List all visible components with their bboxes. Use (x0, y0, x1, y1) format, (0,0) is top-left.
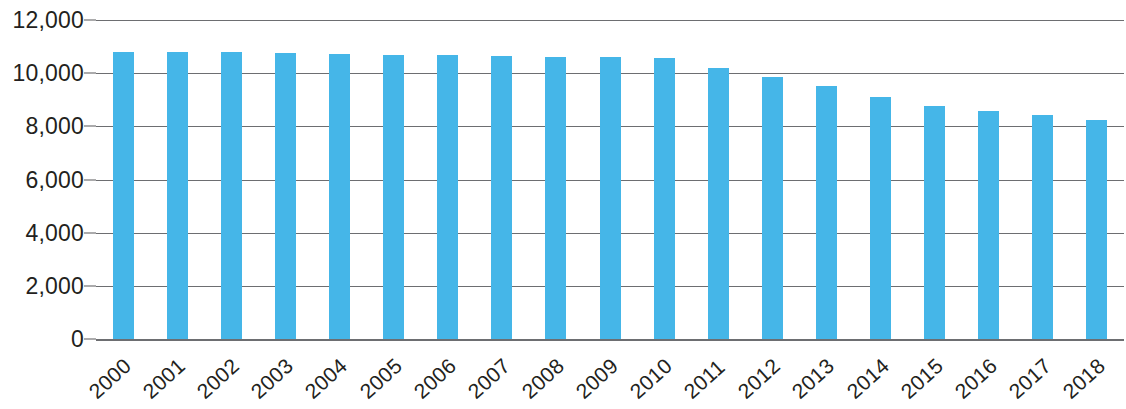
bar-chart: 02,0004,0006,0008,00010,00012,000 200020… (0, 0, 1126, 409)
bar-2018[interactable] (1086, 120, 1107, 339)
bar-2009[interactable] (600, 57, 621, 339)
y-tick-label-2000: 2,000 (25, 272, 84, 299)
x-tick-label-2010: 2010 (625, 354, 677, 404)
x-tick-label-2000: 2000 (84, 354, 136, 404)
x-tick-label-2012: 2012 (734, 354, 786, 404)
bar-2012[interactable] (762, 77, 783, 339)
y-tick-mark-6000 (84, 179, 96, 180)
y-tick-label-6000: 6,000 (25, 166, 84, 193)
x-tick-label-2016: 2016 (950, 354, 1002, 404)
bar-2002[interactable] (221, 52, 242, 339)
y-tick-mark-2000 (84, 285, 96, 286)
x-tick-label-2018: 2018 (1058, 354, 1110, 404)
bar-2010[interactable] (654, 58, 675, 339)
x-tick-label-2006: 2006 (409, 354, 461, 404)
bar-2000[interactable] (113, 52, 134, 339)
bar-2007[interactable] (491, 56, 512, 339)
x-tick-label-2003: 2003 (247, 354, 299, 404)
bar-2017[interactable] (1032, 115, 1053, 339)
y-tick-mark-12000 (84, 20, 96, 21)
x-tick-label-2011: 2011 (680, 355, 731, 404)
bar-2006[interactable] (437, 55, 458, 339)
y-tick-label-4000: 4,000 (25, 219, 84, 246)
x-tick-label-2001: 2001 (139, 354, 191, 404)
y-tick-label-12000: 12,000 (12, 7, 84, 34)
x-tick-label-2005: 2005 (355, 354, 407, 404)
y-tick-label-10000: 10,000 (12, 60, 84, 87)
x-tick-label-2015: 2015 (896, 354, 948, 404)
y-tick-mark-4000 (84, 232, 96, 233)
x-tick-label-2008: 2008 (517, 354, 569, 404)
bar-2015[interactable] (924, 106, 945, 339)
y-tick-label-0: 0 (71, 326, 84, 353)
x-tick-label-2004: 2004 (301, 354, 353, 404)
x-tick-label-2007: 2007 (463, 354, 515, 404)
x-tick-label-2013: 2013 (788, 354, 840, 404)
y-tick-mark-8000 (84, 126, 96, 127)
x-tick-label-2014: 2014 (842, 354, 894, 404)
bar-2005[interactable] (383, 55, 404, 339)
bar-2014[interactable] (870, 97, 891, 339)
y-tick-label-8000: 8,000 (25, 113, 84, 140)
bar-2003[interactable] (275, 53, 296, 339)
y-tick-mark-10000 (84, 73, 96, 74)
plot-area (96, 20, 1124, 339)
y-tick-mark-0 (84, 339, 96, 340)
x-axis: 2000200120022003200420052006200720082009… (96, 339, 1124, 409)
bar-2008[interactable] (545, 57, 566, 339)
y-axis: 02,0004,0006,0008,00010,00012,000 (0, 20, 84, 339)
x-tick-label-2009: 2009 (571, 354, 623, 404)
bar-2016[interactable] (978, 111, 999, 339)
bar-2004[interactable] (329, 54, 350, 340)
bar-2001[interactable] (167, 52, 188, 339)
bar-2013[interactable] (816, 86, 837, 339)
x-tick-label-2017: 2017 (1004, 354, 1056, 404)
bars-group (96, 20, 1124, 339)
bar-2011[interactable] (708, 68, 729, 339)
x-tick-label-2002: 2002 (193, 354, 245, 404)
